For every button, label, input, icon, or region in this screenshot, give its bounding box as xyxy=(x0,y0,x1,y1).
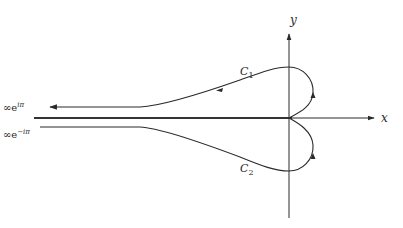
label-infinity-lower: ∞e−iπ xyxy=(3,128,30,140)
arrow-c1-loop-icon xyxy=(311,92,316,98)
arrow-c1-branch-icon xyxy=(216,88,223,92)
y-axis-label: y xyxy=(289,13,297,27)
label-c2: C2 xyxy=(240,162,254,177)
label-c1: C1 xyxy=(240,65,254,80)
contour-diagram: y x C1 C2 ∞eiπ ∞e−iπ xyxy=(0,0,403,228)
contour-c1 xyxy=(50,67,316,118)
contour-c2 xyxy=(40,118,316,171)
label-infinity-upper: ∞eiπ xyxy=(3,101,24,113)
x-axis-label: x xyxy=(381,111,388,125)
